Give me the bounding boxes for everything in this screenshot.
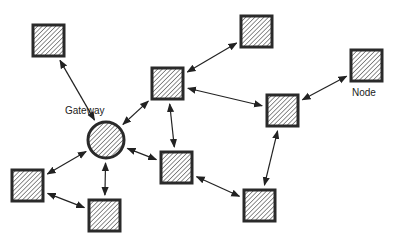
network-node-n3	[241, 16, 272, 47]
bidirectional-link-n6-n9	[197, 177, 240, 197]
nodes-layer	[12, 16, 382, 231]
bidirectional-link-n5-n9	[264, 131, 277, 185]
bidirectional-link-gw-n2	[123, 101, 148, 124]
bidirectional-link-n2-n6	[170, 104, 175, 147]
bidirectional-link-gw-n6	[127, 148, 156, 159]
network-node-n5	[267, 95, 298, 126]
network-node-n6	[161, 152, 192, 183]
network-node-n9	[244, 190, 275, 221]
bidirectional-link-gw-n8	[105, 163, 106, 195]
bidirectional-link-n2-n5	[188, 88, 262, 105]
network-node-n2	[152, 68, 183, 99]
bidirectional-link-n5-n4	[302, 76, 346, 100]
bidirectional-link-gw-n7	[47, 152, 86, 174]
bidirectional-link-n2-n3	[187, 43, 236, 72]
network-node-n8	[89, 200, 120, 231]
network-node-n4	[351, 50, 382, 81]
gateway-label: Gateway	[65, 105, 104, 116]
edges-layer	[47, 43, 346, 208]
network-node-n1	[33, 25, 64, 56]
network-node-n7	[12, 170, 43, 201]
gateway-node	[88, 122, 124, 158]
bidirectional-link-n7-n8	[48, 193, 85, 207]
node-label: Node	[352, 87, 376, 98]
network-diagram: Gateway Node	[0, 0, 394, 244]
